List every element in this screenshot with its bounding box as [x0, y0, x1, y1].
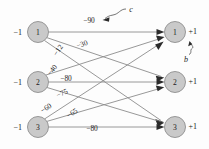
- arrowhead-icon: [157, 79, 165, 85]
- node-left-2[interactable]: 2: [28, 72, 49, 93]
- edge-L1-R1: [49, 29, 165, 35]
- weight-label-L1-R2: −30: [75, 38, 89, 51]
- weight-label-L1-R3: −12: [51, 42, 65, 57]
- edge-L2-R1: [46, 36, 165, 75]
- edge-L3-R3: [49, 124, 165, 130]
- input-label-node-3: −1: [13, 123, 22, 132]
- node-right-3-label: 3: [173, 123, 177, 132]
- weight-label-L2-R2: −80: [60, 74, 72, 83]
- weight-label-L2-R3: −75: [55, 86, 70, 99]
- node-right-2-label: 2: [173, 78, 177, 87]
- b-annotation-label: b: [184, 55, 188, 64]
- node-left-3[interactable]: 3: [28, 117, 49, 138]
- weight-label-L1-R1: −90: [83, 16, 95, 25]
- input-label-group: −1 −1 −1: [13, 28, 22, 132]
- weight-label-L3-R2: −65: [65, 106, 80, 120]
- c-annotation-group: c: [103, 5, 134, 22]
- right-node-group: 1 2 3: [165, 22, 186, 138]
- network-diagram-canvas: 1 2 3 1 2 3: [0, 0, 209, 149]
- node-right-1-label: 1: [173, 28, 177, 37]
- node-left-2-label: 2: [36, 78, 40, 87]
- arrowhead-icon: [156, 36, 165, 42]
- node-left-3-label: 3: [36, 123, 40, 132]
- c-annotation-label: c: [129, 5, 133, 14]
- node-left-1[interactable]: 1: [28, 22, 49, 43]
- output-label-node-1: +1: [189, 27, 198, 36]
- arrowhead-icon: [155, 42, 164, 50]
- b-annotation-group: b: [184, 41, 193, 64]
- output-label-node-2: +1: [189, 77, 198, 86]
- output-label-node-3: +1: [189, 122, 198, 131]
- arrowhead-icon: [157, 29, 165, 35]
- node-right-1[interactable]: 1: [165, 22, 186, 43]
- diagram-svg: 1 2 3 1 2 3: [0, 0, 209, 149]
- input-label-node-2: −1: [13, 78, 22, 87]
- input-label-node-1: −1: [13, 28, 22, 37]
- left-node-group: 1 2 3: [28, 22, 49, 138]
- arrowhead-icon: [156, 85, 165, 91]
- node-left-1-label: 1: [36, 28, 40, 37]
- weight-label-L3-R1: −60: [39, 101, 54, 115]
- node-right-3[interactable]: 3: [165, 117, 186, 138]
- weight-label-L3-R3: −80: [86, 124, 98, 133]
- node-right-2[interactable]: 2: [165, 72, 186, 93]
- c-leader-line: [105, 9, 126, 19]
